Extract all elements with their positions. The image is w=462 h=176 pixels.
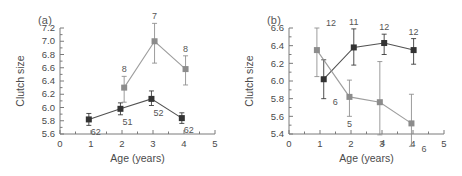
- data-point-marker: [411, 47, 417, 53]
- data-point-marker: [121, 85, 127, 91]
- sample-size-label: 52: [153, 108, 163, 118]
- x-tick-label: 5: [212, 138, 217, 149]
- y-tick-label: 5.6: [271, 111, 284, 122]
- sample-size-label: 7: [152, 11, 157, 21]
- y-axis-title: Clutch size: [14, 55, 26, 107]
- y-axis-title: Clutch size: [243, 55, 255, 107]
- panel-b-plot: 5.45.65.86.06.26.46.6012345Age (years)Cl…: [231, 0, 462, 176]
- x-tick-label: 0: [286, 138, 291, 149]
- x-tick-label: 2: [119, 138, 124, 149]
- series-gray-series: 878: [121, 11, 188, 102]
- sample-size-label: 12: [326, 18, 336, 28]
- sample-size-label: 8: [183, 44, 188, 54]
- data-point-marker: [351, 44, 357, 50]
- series-line: [317, 50, 412, 123]
- series-dark-series: 62515262: [86, 91, 194, 137]
- y-tick-label: 6.0: [271, 75, 284, 86]
- y-tick-label: 6.6: [42, 62, 55, 73]
- x-tick-label: 5: [441, 138, 446, 149]
- y-tick-label: 6.8: [42, 49, 55, 60]
- data-point-marker: [148, 96, 154, 102]
- y-tick-label: 7.0: [42, 35, 55, 46]
- sample-size-label: 5: [347, 119, 352, 129]
- sample-size-label: 6: [421, 144, 426, 154]
- x-axis-title: Age (years): [110, 152, 164, 164]
- series-line: [89, 99, 182, 120]
- data-point-marker: [117, 106, 123, 112]
- sample-size-label: 8: [122, 64, 127, 74]
- y-tick-label: 6.0: [42, 102, 55, 113]
- sample-size-label: 62: [184, 125, 194, 135]
- sample-size-label: 11: [349, 17, 358, 27]
- y-tick-label: 6.4: [271, 40, 284, 51]
- series-dark-series: 6111212: [321, 17, 419, 107]
- figure-container: (a) 5.65.86.06.26.46.66.87.07.2012345Age…: [0, 0, 462, 176]
- x-tick-label: 0: [57, 138, 62, 149]
- y-tick-label: 6.2: [42, 88, 55, 99]
- sample-size-label: 6: [333, 97, 338, 107]
- x-tick-label: 4: [181, 138, 186, 149]
- sample-size-label: 4: [380, 138, 385, 148]
- sample-size-label: 12: [379, 22, 389, 32]
- sample-size-label: 51: [122, 117, 132, 127]
- x-tick-label: 1: [317, 138, 322, 149]
- data-point-marker: [86, 116, 92, 122]
- y-tick-label: 5.8: [271, 93, 284, 104]
- data-point-marker: [377, 99, 383, 105]
- x-tick-label: 2: [348, 138, 353, 149]
- series-line: [324, 43, 414, 79]
- data-point-marker: [321, 76, 327, 82]
- data-point-marker: [152, 38, 158, 44]
- data-point-marker: [408, 120, 414, 126]
- sample-size-label: 62: [91, 127, 101, 137]
- y-tick-label: 6.6: [271, 22, 284, 33]
- data-point-marker: [381, 40, 387, 46]
- panel-a: (a) 5.65.86.06.26.46.66.87.07.2012345Age…: [0, 0, 231, 176]
- y-tick-label: 6.4: [42, 75, 55, 86]
- y-tick-label: 5.4: [271, 128, 284, 139]
- data-point-marker: [183, 66, 189, 72]
- y-tick-label: 5.6: [42, 128, 55, 139]
- y-tick-label: 5.8: [42, 115, 55, 126]
- y-tick-label: 6.2: [271, 58, 284, 69]
- y-tick-label: 7.2: [42, 22, 55, 33]
- x-tick-label: 3: [150, 138, 155, 149]
- data-point-marker: [314, 47, 320, 53]
- sample-size-label: 12: [409, 27, 419, 37]
- panel-a-plot: 5.65.86.06.26.46.66.87.07.2012345Age (ye…: [0, 0, 231, 176]
- data-point-marker: [346, 94, 352, 100]
- x-axis-title: Age (years): [339, 152, 393, 164]
- x-tick-label: 1: [88, 138, 93, 149]
- data-point-marker: [179, 115, 185, 121]
- panel-b: (b) 5.45.65.86.06.26.46.6012345Age (year…: [231, 0, 462, 176]
